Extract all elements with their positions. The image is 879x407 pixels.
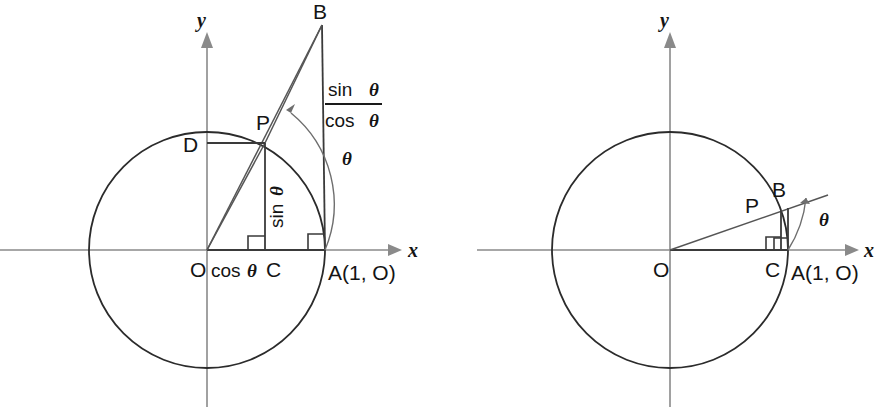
point-label-C: C — [765, 258, 780, 281]
svg-text:sin: sin — [328, 79, 352, 100]
point-label-P: P — [256, 111, 270, 134]
x-axis-right — [477, 244, 859, 256]
right-angle-mark-C — [248, 236, 265, 250]
right-angle-mark-A — [308, 234, 325, 250]
angle-theta-label: θ — [342, 148, 352, 169]
point-label-P: P — [745, 194, 759, 217]
point-label-O: O — [653, 258, 669, 281]
svg-text:θ: θ — [247, 260, 257, 281]
svg-text:θ: θ — [369, 110, 379, 131]
y-axis-right — [664, 32, 676, 407]
x-axis-label: x — [863, 239, 874, 261]
point-label-C: C — [266, 258, 281, 281]
angle-theta-label: θ — [819, 209, 829, 230]
svg-text:cos: cos — [325, 110, 355, 131]
figure-root: x y B P D O C A(1, O) cos — [0, 0, 879, 407]
svg-text:cos: cos — [211, 260, 241, 281]
point-label-B: B — [313, 0, 327, 23]
point-label-A: A(1, O) — [328, 261, 396, 284]
segment-AB — [322, 25, 325, 250]
point-label-B: B — [772, 178, 786, 201]
point-label-D: D — [183, 133, 198, 156]
x-axis-left — [0, 244, 402, 256]
svg-text:θ: θ — [266, 186, 287, 196]
x-axis-label: x — [407, 239, 418, 261]
angle-arc-arrowhead — [286, 104, 295, 113]
y-axis-label: y — [658, 9, 669, 32]
point-label-A: A(1, O) — [791, 261, 859, 284]
cos-theta-label: cos θ — [211, 260, 257, 281]
tangent-fraction-label: sin θ cos θ — [325, 79, 382, 131]
svg-text:θ: θ — [369, 79, 379, 100]
sin-theta-label: sin θ — [266, 186, 287, 228]
svg-text:sin: sin — [266, 204, 287, 228]
y-axis-left — [201, 32, 213, 407]
y-axis-label: y — [195, 9, 206, 32]
diagram-right-panel: x y B P O C A(1, O) θ — [440, 0, 879, 407]
diagram-left-panel: x y B P D O C A(1, O) cos — [0, 0, 440, 407]
point-label-O: O — [190, 258, 206, 281]
angle-arc — [291, 113, 334, 250]
